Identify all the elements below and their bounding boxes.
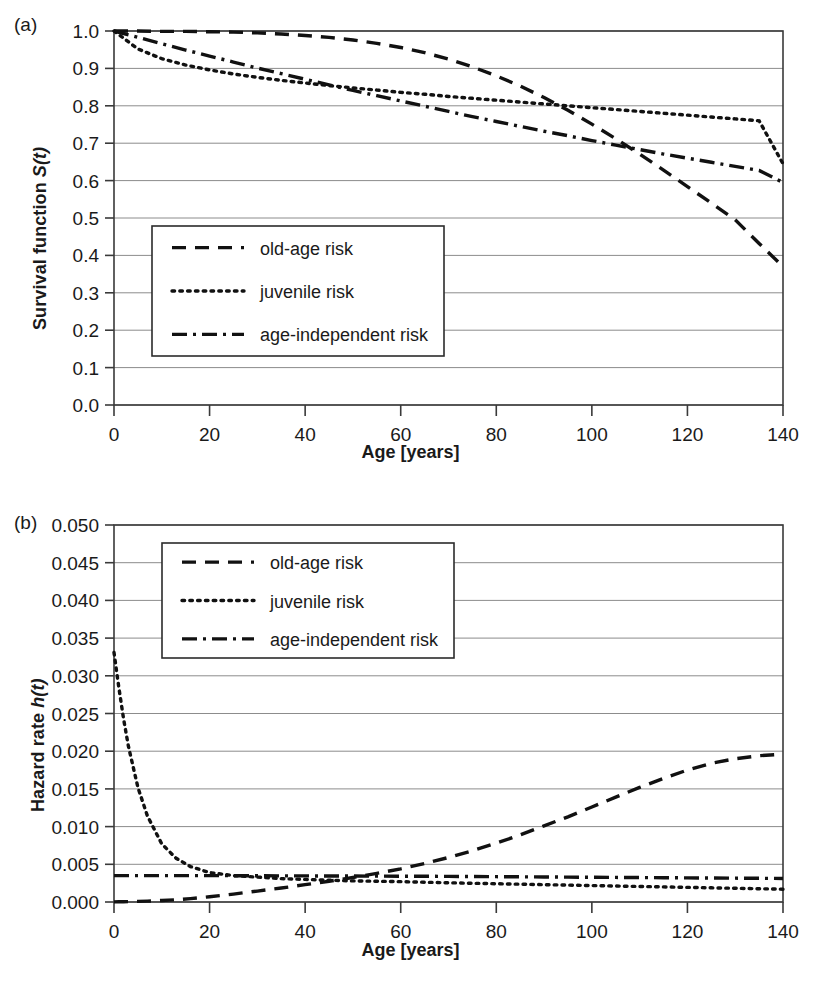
y-axis-tick-label: 0.1 [73, 358, 99, 379]
y-axis-tick-label: 0.7 [73, 133, 99, 154]
series-line-dashdot [114, 876, 783, 879]
y-axis-tick-label: 0.045 [51, 553, 99, 574]
y-axis-tick-label: 0.000 [51, 892, 99, 913]
panel-a-x-axis-title: Age [years] [0, 442, 821, 463]
legend-label: age-independent risk [260, 325, 429, 345]
panel-a-plot: 0.00.10.20.30.40.50.60.70.80.91.00204060… [0, 0, 821, 500]
x-axis-tick-label: 0 [109, 921, 120, 942]
y-axis-tick-label: 0.5 [73, 208, 99, 229]
y-axis-tick-label: 0.4 [73, 245, 100, 266]
y-axis-tick-label: 0.8 [73, 96, 99, 117]
y-axis-tick-label: 0.050 [51, 515, 99, 536]
y-axis-tick-label: 0.3 [73, 283, 99, 304]
legend-label: old-age risk [260, 239, 354, 259]
y-axis-tick-label: 0.025 [51, 704, 99, 725]
legend-label: old-age risk [270, 553, 364, 573]
x-axis-tick-label: 80 [486, 921, 507, 942]
y-axis-tick-label: 0.040 [51, 590, 99, 611]
x-axis-tick-label: 20 [199, 921, 220, 942]
y-axis-tick-label: 0.015 [51, 779, 99, 800]
y-axis-tick-label: 0.2 [73, 320, 99, 341]
panel-a: (a) Survival function S(t) 0.00.10.20.30… [0, 0, 821, 500]
x-axis-tick-label: 60 [390, 921, 411, 942]
series-line-dashed [114, 754, 783, 902]
panel-b-plot: 0.0000.0050.0100.0150.0200.0250.0300.035… [0, 500, 821, 999]
y-axis-tick-label: 0.020 [51, 741, 99, 762]
y-axis-tick-label: 0.9 [73, 58, 99, 79]
y-axis-tick-label: 1.0 [73, 21, 99, 42]
series-line-dashdot [114, 31, 783, 182]
y-axis-tick-label: 0.035 [51, 628, 99, 649]
y-axis-tick-label: 0.6 [73, 171, 99, 192]
series-line-dotted [114, 31, 783, 164]
panel-b-x-axis-title: Age [years] [0, 940, 821, 961]
x-axis-tick-label: 120 [672, 921, 704, 942]
y-axis-tick-label: 0.0 [73, 395, 99, 416]
y-axis-tick-label: 0.005 [51, 854, 99, 875]
y-axis-tick-label: 0.030 [51, 666, 99, 687]
legend-label: age-independent risk [270, 630, 439, 650]
x-axis-tick-label: 100 [576, 921, 608, 942]
y-axis-tick-label: 0.010 [51, 817, 99, 838]
legend-label: juvenile risk [259, 282, 355, 302]
panel-b: (b) Hazard rate h(t) 0.0000.0050.0100.01… [0, 500, 821, 999]
x-axis-tick-label: 40 [295, 921, 316, 942]
x-axis-tick-label: 140 [767, 921, 799, 942]
legend-label: juvenile risk [269, 592, 365, 612]
